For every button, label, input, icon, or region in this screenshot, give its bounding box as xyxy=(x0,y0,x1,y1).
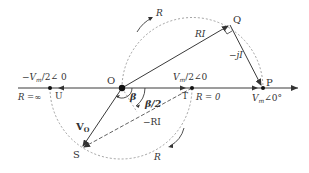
label-r-infinity: R =∞ xyxy=(17,92,41,102)
label-q: Q xyxy=(233,14,241,25)
label-o: O xyxy=(107,75,115,86)
axis-arrow-to-u-icon xyxy=(58,86,64,91)
label-u: U xyxy=(55,91,63,101)
rotation-arrow-top-icon xyxy=(148,17,153,21)
label-s: S xyxy=(73,149,80,160)
label-beta: β xyxy=(129,91,137,102)
axis-arrow-icon xyxy=(291,85,298,91)
axis-arrow-to-p-icon xyxy=(252,86,258,91)
beta-half-angle-arc xyxy=(136,88,145,106)
point-p xyxy=(261,86,265,90)
point-o xyxy=(119,85,125,91)
label-neg-ri: −RI xyxy=(143,117,161,127)
axis-arrow-to-t-icon xyxy=(180,86,186,91)
right-angle-mark xyxy=(224,29,232,34)
label-p: P xyxy=(266,77,273,88)
rotation-arrow-bottom-icon xyxy=(168,144,173,148)
label-r-bottom: R xyxy=(153,152,161,162)
label-half-vm: Vm/2∠0 xyxy=(173,72,208,83)
label-beta-half: β/2 xyxy=(144,98,162,109)
label-source-vm: Vm∠0° xyxy=(252,93,282,104)
point-u xyxy=(48,86,52,90)
label-neg-half-vm: −Vm/2∠ 0 xyxy=(22,72,67,83)
lower-locus-arc xyxy=(50,88,192,159)
point-t xyxy=(190,86,194,90)
label-t: T xyxy=(182,91,188,101)
label-r-top: R xyxy=(155,8,163,18)
label-r-zero: R = 0 xyxy=(195,92,221,102)
label-vo: VO xyxy=(75,121,90,134)
neg-ri-phasor xyxy=(84,88,192,147)
label-ri: RI xyxy=(194,29,206,39)
phasor-diagram: O Q P U T S −Vm/2∠ 0 Vm/2∠0 Vm∠0° R =∞ R… xyxy=(0,0,309,173)
label-neg-ji: −jI xyxy=(229,50,243,60)
